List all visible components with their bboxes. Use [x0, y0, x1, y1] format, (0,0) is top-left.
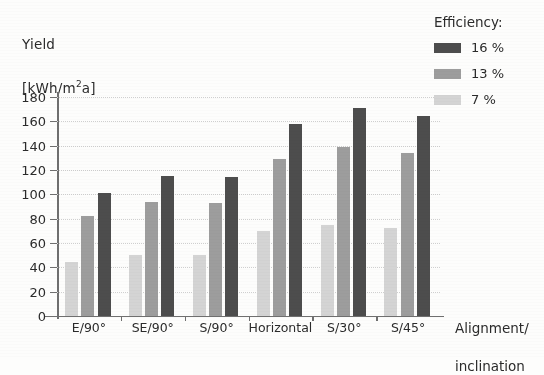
legend-swatch [434, 69, 461, 79]
y-axis-tick [50, 121, 57, 122]
legend-item: 7 % [434, 92, 504, 107]
bar [384, 228, 397, 316]
x-axis-tick-label: S/45° [391, 322, 425, 335]
gridline [57, 194, 440, 195]
y-axis-tick [50, 267, 57, 268]
x-axis-group-separator [376, 316, 377, 321]
bar [321, 225, 334, 316]
gridline [57, 97, 440, 98]
legend-item-label: 13 % [471, 66, 504, 81]
bar [417, 116, 430, 316]
y-axis-unit-suffix: a] [82, 80, 96, 96]
bar [337, 147, 350, 316]
x-axis-group-separator [121, 316, 122, 321]
bar [65, 262, 78, 316]
y-axis-tick [50, 97, 57, 98]
x-axis-group-separator [312, 316, 313, 321]
bar [353, 108, 366, 316]
y-axis-tick-label: 60 [29, 237, 46, 250]
x-axis-tick-label: SE/90° [132, 322, 174, 335]
legend: Efficiency: 16 %13 %7 % [434, 14, 504, 118]
bar [289, 124, 302, 316]
gridline [57, 292, 440, 293]
legend-title: Efficiency: [434, 14, 504, 30]
bar [225, 177, 238, 316]
y-axis-tick [50, 316, 57, 317]
y-axis-tick [50, 219, 57, 220]
bar [193, 255, 206, 316]
gridline [57, 170, 440, 171]
y-axis-tick-label: 100 [21, 188, 46, 201]
plot-area: 020406080100120140160180 [57, 97, 440, 316]
legend-item-label: 7 % [471, 92, 496, 107]
y-axis-tick-label: 80 [29, 212, 46, 225]
gridline [57, 267, 440, 268]
y-axis-tick-label: 180 [21, 91, 46, 104]
y-axis-tick-label: 40 [29, 261, 46, 274]
bar [145, 202, 158, 316]
x-axis-group-separator [185, 316, 186, 321]
y-axis-tick-label: 120 [21, 164, 46, 177]
x-axis-title: Alignment/ inclination [455, 300, 529, 375]
bar [257, 231, 270, 316]
y-axis-tick-label: 140 [21, 139, 46, 152]
y-axis-tick-label: 0 [38, 310, 46, 323]
y-axis-tick [50, 170, 57, 171]
gridline [57, 121, 440, 122]
gridline [57, 219, 440, 220]
y-axis-tick [50, 292, 57, 293]
x-axis-tick-label: E/90° [72, 322, 106, 335]
gridline [57, 146, 440, 147]
legend-swatch [434, 95, 461, 105]
x-axis-title-line2: inclination [455, 357, 529, 375]
gridline [57, 243, 440, 244]
bar [209, 203, 222, 316]
y-axis-tick-label: 20 [29, 285, 46, 298]
y-axis-tick [50, 194, 57, 195]
legend-item-label: 16 % [471, 40, 504, 55]
legend-item: 16 % [434, 40, 504, 55]
y-axis-tick-label: 160 [21, 115, 46, 128]
x-axis-tick-label: S/90° [199, 322, 233, 335]
x-axis-tick-label: S/30° [327, 322, 361, 335]
x-axis-tick-label: Horizontal [248, 322, 312, 335]
bar [98, 193, 111, 316]
bar [161, 176, 174, 316]
x-axis-title-line1: Alignment/ [455, 319, 529, 338]
y-axis-tick [50, 243, 57, 244]
legend-swatch [434, 43, 461, 53]
legend-entries: 16 %13 %7 % [434, 40, 504, 107]
bar [81, 216, 94, 316]
legend-item: 13 % [434, 66, 504, 81]
bar [273, 159, 286, 316]
bar [401, 153, 414, 316]
y-axis-title-line1: Yield [22, 34, 96, 54]
bar [129, 255, 142, 316]
y-axis-tick [50, 146, 57, 147]
